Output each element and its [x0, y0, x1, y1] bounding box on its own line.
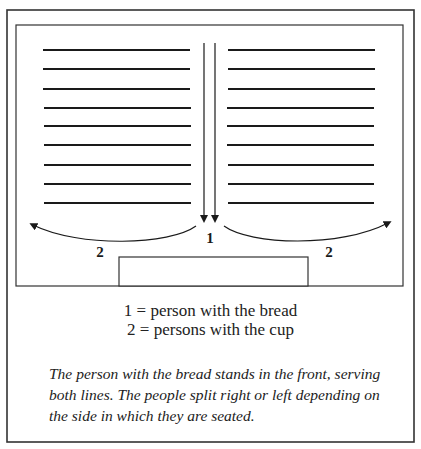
legend: 1 = person with the bread 2 = persons wi… — [0, 301, 421, 339]
left-seating-rows — [43, 50, 191, 203]
curved-arrow-right-icon — [224, 223, 388, 241]
right-seating-rows — [227, 50, 375, 203]
front-table — [119, 257, 308, 286]
label-cup-right: 2 — [325, 244, 333, 260]
label-bread-server: 1 — [206, 230, 214, 246]
curved-arrow-left-icon — [33, 225, 196, 241]
legend-item-bread: 1 = person with the bread — [0, 301, 421, 320]
label-cup-left: 2 — [96, 244, 104, 260]
room-frame — [16, 25, 403, 286]
aisle-down-arrows — [204, 43, 215, 219]
communion-flow-figure: 1 2 2 1 = person with the bread 2 = pers… — [0, 0, 421, 449]
caption: The person with the bread stands in the … — [49, 363, 389, 426]
legend-item-cup: 2 = persons with the cup — [0, 320, 421, 339]
